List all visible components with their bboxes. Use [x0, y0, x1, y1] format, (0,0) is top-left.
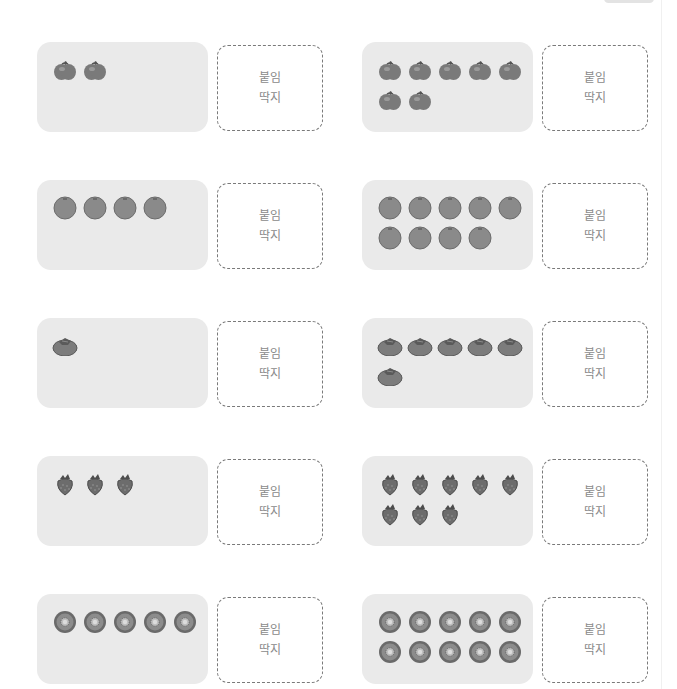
orange-icon [465, 225, 495, 251]
sticker-label-line2: 딱지 [584, 88, 606, 108]
orange-icon [110, 195, 140, 221]
strawberry-icon [405, 501, 435, 527]
strawberry-icon [375, 501, 405, 527]
kiwi-icon [435, 609, 465, 635]
persimmon-icon [375, 333, 405, 359]
sticker-label-line2: 딱지 [259, 364, 281, 384]
kiwi-icon [170, 609, 200, 635]
strawberry-icon [495, 471, 525, 497]
fruit-card-kiwi-left [37, 594, 208, 684]
sticker-label-line1: 붙임 [584, 482, 606, 502]
fruit-group [50, 333, 200, 359]
sticker-label-line1: 붙임 [259, 344, 281, 364]
sticker-slot-persimmon-left[interactable]: 붙임딱지 [217, 321, 323, 407]
orange-icon [465, 195, 495, 221]
persimmon-icon [435, 333, 465, 359]
page-edge-rule [661, 0, 662, 689]
fruit-card-strawberry-right [362, 456, 533, 546]
fruit-card-orange-right [362, 180, 533, 270]
fruit-card-kiwi-right [362, 594, 533, 684]
apple-icon [375, 87, 405, 113]
kiwi-icon [465, 609, 495, 635]
sticker-slot-strawberry-right[interactable]: 붙임딱지 [542, 459, 648, 545]
sticker-label-line1: 붙임 [259, 68, 281, 88]
sticker-slot-orange-right[interactable]: 붙임딱지 [542, 183, 648, 269]
sticker-slot-orange-left[interactable]: 붙임딱지 [217, 183, 323, 269]
kiwi-icon [405, 639, 435, 665]
apple-icon [435, 57, 465, 83]
orange-icon [80, 195, 110, 221]
fruit-card-strawberry-left [37, 456, 208, 546]
sticker-slot-kiwi-left[interactable]: 붙임딱지 [217, 597, 323, 683]
apple-icon [465, 57, 495, 83]
kiwi-icon [495, 609, 525, 635]
sticker-label-line2: 딱지 [259, 640, 281, 660]
strawberry-icon [465, 471, 495, 497]
fruit-card-orange-left [37, 180, 208, 270]
kiwi-icon [80, 609, 110, 635]
strawberry-icon [435, 471, 465, 497]
sticker-label-line1: 붙임 [584, 620, 606, 640]
apple-icon [50, 57, 80, 83]
kiwi-icon [140, 609, 170, 635]
strawberry-icon [375, 471, 405, 497]
apple-icon [375, 57, 405, 83]
apple-icon [405, 87, 435, 113]
sticker-label-line1: 붙임 [584, 68, 606, 88]
sticker-slot-kiwi-right[interactable]: 붙임딱지 [542, 597, 648, 683]
kiwi-icon [405, 609, 435, 635]
persimmon-icon [465, 333, 495, 359]
sticker-slot-apple-left[interactable]: 붙임딱지 [217, 45, 323, 131]
persimmon-icon [50, 333, 80, 359]
kiwi-icon [495, 639, 525, 665]
kiwi-icon [50, 609, 80, 635]
fruit-card-persimmon-left [37, 318, 208, 408]
orange-icon [495, 195, 525, 221]
orange-icon [375, 225, 405, 251]
sticker-label-line2: 딱지 [584, 640, 606, 660]
sticker-label-line1: 붙임 [584, 344, 606, 364]
fruit-group [375, 333, 525, 389]
fruit-group [375, 471, 525, 527]
fruit-card-apple-left [37, 42, 208, 132]
orange-icon [435, 195, 465, 221]
strawberry-icon [80, 471, 110, 497]
persimmon-icon [375, 363, 405, 389]
fruit-card-persimmon-right [362, 318, 533, 408]
fruit-group [50, 195, 200, 221]
fruit-card-apple-right [362, 42, 533, 132]
top-tab [604, 0, 654, 3]
apple-icon [80, 57, 110, 83]
fruit-group [375, 57, 525, 113]
fruit-group [50, 609, 200, 635]
kiwi-icon [465, 639, 495, 665]
strawberry-icon [110, 471, 140, 497]
kiwi-icon [375, 639, 405, 665]
orange-icon [140, 195, 170, 221]
sticker-label-line1: 붙임 [584, 206, 606, 226]
fruit-group [50, 471, 200, 497]
sticker-label-line2: 딱지 [584, 502, 606, 522]
strawberry-icon [435, 501, 465, 527]
sticker-slot-strawberry-left[interactable]: 붙임딱지 [217, 459, 323, 545]
sticker-label-line1: 붙임 [259, 482, 281, 502]
sticker-label-line2: 딱지 [259, 502, 281, 522]
persimmon-icon [495, 333, 525, 359]
sticker-slot-apple-right[interactable]: 붙임딱지 [542, 45, 648, 131]
sticker-label-line2: 딱지 [584, 226, 606, 246]
sticker-label-line1: 붙임 [259, 206, 281, 226]
sticker-label-line2: 딱지 [259, 88, 281, 108]
apple-icon [405, 57, 435, 83]
kiwi-icon [110, 609, 140, 635]
orange-icon [405, 225, 435, 251]
fruit-group [375, 609, 525, 665]
strawberry-icon [50, 471, 80, 497]
kiwi-icon [375, 609, 405, 635]
persimmon-icon [405, 333, 435, 359]
strawberry-icon [405, 471, 435, 497]
orange-icon [405, 195, 435, 221]
orange-icon [50, 195, 80, 221]
sticker-label-line2: 딱지 [584, 364, 606, 384]
kiwi-icon [435, 639, 465, 665]
sticker-slot-persimmon-right[interactable]: 붙임딱지 [542, 321, 648, 407]
